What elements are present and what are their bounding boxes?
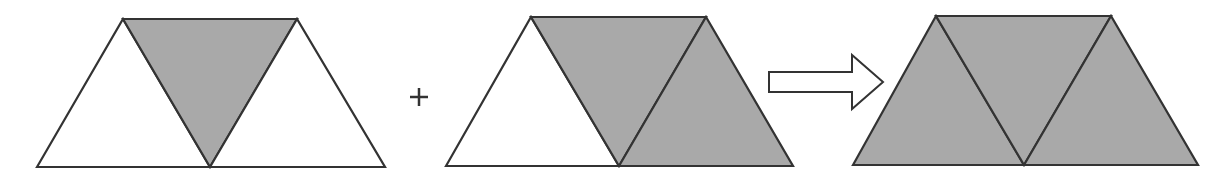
- triangle-addition-diagram: [0, 0, 1228, 176]
- plus-icon: [410, 88, 428, 106]
- trapezoid-figure-1: [37, 19, 385, 167]
- trapezoid-figure-2: [446, 17, 793, 166]
- trapezoid-figure-3: [853, 16, 1198, 165]
- right-arrow-icon: [769, 55, 883, 109]
- diagram-canvas: [0, 0, 1228, 176]
